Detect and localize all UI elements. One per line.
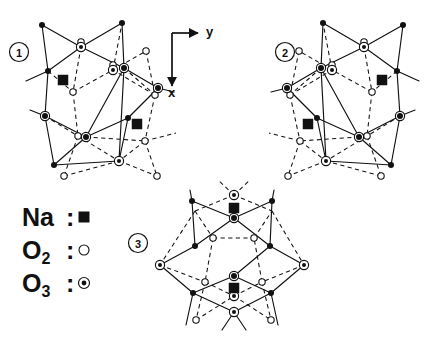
o3-site-inner [362, 45, 366, 49]
na-site [58, 75, 69, 86]
o2-site [70, 89, 76, 95]
o2-site [142, 138, 148, 144]
o3-site-inner [117, 159, 121, 163]
lattice-vertex [83, 134, 89, 140]
lattice-vertex [388, 162, 394, 168]
na-site [132, 119, 143, 130]
o3-site-inner [111, 68, 115, 72]
o2-site [210, 235, 216, 241]
legend-colon: : [66, 236, 74, 264]
na-site [229, 203, 240, 214]
legend-species-subscript: 2 [41, 250, 50, 267]
lattice-vertex [397, 113, 403, 119]
na-marker-filled-square [79, 212, 90, 223]
o2-site [297, 138, 303, 144]
o2-site [154, 173, 160, 179]
x-axis-label: x [168, 85, 176, 100]
na-site [303, 119, 314, 130]
lattice-vertex [267, 243, 273, 249]
legend-colon: : [66, 269, 74, 297]
lattice-vertex [119, 20, 125, 26]
o3-site-inner [324, 159, 328, 163]
lattice-vertex [39, 22, 45, 28]
panel-index-badge: 2 [276, 43, 295, 62]
structure-diagram-canvas: 123 yx Na:O2:O3: [0, 0, 445, 340]
lattice-vertex [400, 22, 406, 28]
o2-site [202, 279, 208, 285]
lattice-vertex [192, 243, 198, 249]
lattice-vertex [121, 65, 127, 71]
legend-colon: : [66, 203, 74, 231]
o3-site-inner [330, 68, 334, 72]
o2-site [251, 235, 257, 241]
lattice-vertex [284, 85, 290, 91]
o2-site [193, 317, 199, 323]
o2-site [378, 173, 384, 179]
lattice-vertex [318, 65, 324, 71]
o2-marker-open-circle [79, 245, 89, 255]
lattice-vertex [190, 290, 196, 296]
o3-site-inner [158, 263, 162, 267]
lattice-vertex [314, 115, 320, 121]
o3-site-inner [232, 294, 236, 298]
o3-site-inner [302, 263, 306, 267]
na-site [229, 283, 240, 294]
o2-site [259, 279, 265, 285]
lattice-vertex [42, 113, 48, 119]
crystal-structure-figure: 123 yx Na:O2:O3: [0, 0, 445, 340]
o2-site [75, 133, 81, 139]
panel-badge-label: 2 [282, 47, 288, 59]
lattice-vertex [189, 198, 195, 204]
o2-site [364, 133, 370, 139]
o2-site [268, 317, 274, 323]
y-axis-label: y [206, 24, 214, 39]
lattice-vertex [231, 215, 237, 221]
lattice-vertex [125, 115, 131, 121]
panel-badge-label: 3 [135, 238, 141, 250]
lattice-vertex [356, 134, 362, 140]
panel-badge-label: 1 [16, 47, 22, 59]
o2-site [61, 173, 67, 179]
lattice-vertex [394, 68, 400, 74]
lattice-vertex [155, 85, 161, 91]
o3-site-inner [79, 45, 83, 49]
o2-site [143, 48, 149, 54]
o2-site [296, 48, 302, 54]
panel-index-badge: 3 [129, 234, 148, 253]
legend-species-label: Na [22, 203, 55, 231]
na-site [377, 75, 388, 86]
lattice-vertex [269, 198, 275, 204]
panel-index-badge: 1 [10, 43, 29, 62]
lattice-vertex [320, 20, 326, 26]
lattice-vertex [231, 273, 237, 279]
o3-marker-concentric-circle-inner [82, 281, 87, 286]
o2-site [285, 173, 291, 179]
o3-site-inner [232, 193, 236, 197]
lattice-vertex [51, 162, 57, 168]
legend-species-subscript: 3 [41, 283, 50, 300]
lattice-vertex [45, 68, 51, 74]
o3-site-inner [232, 310, 236, 314]
lattice-vertex [268, 290, 274, 296]
o2-site [369, 89, 375, 95]
